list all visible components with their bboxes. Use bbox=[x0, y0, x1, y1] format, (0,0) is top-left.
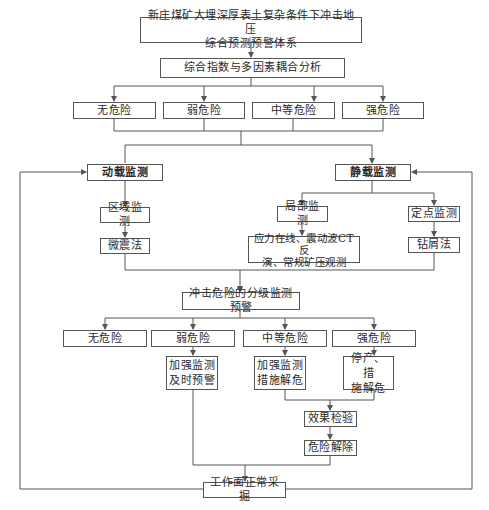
point-monitoring-label: 定点监测 bbox=[411, 207, 457, 221]
drill-cuttings-box: 钻屑法 bbox=[408, 237, 460, 253]
risk2-weak-label: 弱危险 bbox=[176, 332, 211, 346]
weak-action-box: 加强监测 及时预警 bbox=[166, 356, 218, 390]
risk2-none-label: 无危险 bbox=[88, 332, 123, 346]
drill-cuttings-label: 钻屑法 bbox=[417, 238, 452, 252]
static-monitoring-box: 静载监测 bbox=[335, 164, 411, 181]
risk1-strong-box: 强危险 bbox=[342, 102, 424, 119]
risk1-weak-label: 弱危险 bbox=[187, 104, 222, 118]
title-box: 新庄煤矿大埋深厚表土复杂条件下冲击地压 综合预测预警体系 bbox=[140, 17, 362, 43]
risk-cleared-label: 危险解除 bbox=[308, 441, 354, 455]
local-methods-line-1: 应力在线、震动波CT反 bbox=[251, 232, 357, 256]
risk1-none-box: 无危险 bbox=[73, 102, 156, 119]
risk2-strong-label: 强危险 bbox=[357, 332, 392, 346]
dynamic-monitoring-box: 动载监测 bbox=[87, 164, 163, 181]
risk1-weak-box: 弱危险 bbox=[163, 102, 245, 119]
weak-action-line-1: 加强监测 bbox=[169, 358, 215, 373]
medium-action-line-2: 措施解危 bbox=[257, 373, 303, 388]
medium-action-box: 加强监测 措施解危 bbox=[254, 356, 306, 390]
analysis-box: 综合指数与多因素耦合分析 bbox=[160, 58, 345, 78]
title-line-1: 新庄煤矿大埋深厚表土复杂条件下冲击地压 bbox=[143, 9, 359, 37]
strong-action-line-1: 停产、措 bbox=[346, 351, 391, 381]
risk2-none-box: 无危险 bbox=[63, 330, 147, 347]
point-monitoring-box: 定点监测 bbox=[408, 206, 460, 222]
local-monitoring-label: 局部监测 bbox=[280, 200, 325, 228]
normal-mining-box: 工作面正常采掘 bbox=[203, 482, 286, 498]
risk1-medium-box: 中等危险 bbox=[252, 102, 335, 119]
strong-action-box: 停产、措 施解危 bbox=[343, 356, 394, 390]
risk1-medium-label: 中等危险 bbox=[271, 104, 317, 118]
local-methods-line-2: 演、常规矿压观测 bbox=[262, 256, 346, 268]
risk1-strong-label: 强危险 bbox=[366, 104, 401, 118]
flowchart-canvas: 新庄煤矿大埋深厚表土复杂条件下冲击地压 综合预测预警体系 综合指数与多因素耦合分… bbox=[0, 0, 489, 510]
strong-action-line-2: 施解危 bbox=[351, 381, 386, 396]
weak-action-line-2: 及时预警 bbox=[169, 373, 215, 388]
risk2-weak-box: 弱危险 bbox=[151, 330, 235, 347]
dynamic-monitoring-label: 动载监测 bbox=[102, 166, 148, 180]
risk2-medium-box: 中等危险 bbox=[243, 330, 327, 347]
microseismic-label: 微震法 bbox=[108, 239, 143, 253]
local-monitoring-box: 局部监测 bbox=[277, 206, 328, 222]
graded-warning-box: 冲击危险的分级监测预警 bbox=[182, 292, 300, 310]
risk2-strong-box: 强危险 bbox=[332, 330, 416, 347]
effect-check-label: 效果检验 bbox=[308, 412, 354, 426]
graded-warning-label: 冲击危险的分级监测预警 bbox=[185, 287, 297, 315]
medium-action-line-1: 加强监测 bbox=[257, 358, 303, 373]
local-methods-box: 应力在线、震动波CT反 演、常规矿压观测 bbox=[248, 236, 360, 263]
risk-cleared-box: 危险解除 bbox=[304, 440, 357, 456]
title-line-2: 综合预测预警体系 bbox=[205, 37, 297, 51]
risk1-none-label: 无危险 bbox=[97, 104, 132, 118]
normal-mining-label: 工作面正常采掘 bbox=[206, 476, 283, 504]
regional-monitoring-box: 区域监测 bbox=[100, 207, 150, 223]
microseismic-box: 微震法 bbox=[100, 238, 150, 254]
static-monitoring-label: 静载监测 bbox=[350, 166, 396, 180]
analysis-label: 综合指数与多因素耦合分析 bbox=[184, 61, 322, 75]
risk2-medium-label: 中等危险 bbox=[262, 332, 308, 346]
effect-check-box: 效果检验 bbox=[304, 411, 357, 427]
regional-monitoring-label: 区域监测 bbox=[103, 201, 147, 229]
